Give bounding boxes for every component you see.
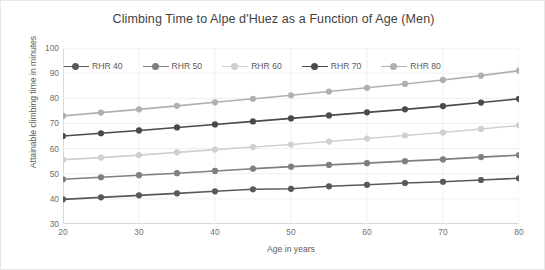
- x-axis-tick-labels: 20304050607080: [63, 227, 519, 241]
- data-point-marker: [478, 154, 484, 160]
- data-point-marker: [250, 96, 256, 102]
- data-point-marker: [326, 138, 332, 144]
- data-point-marker: [478, 126, 484, 132]
- data-point-marker: [174, 149, 180, 155]
- data-point-marker: [478, 99, 484, 105]
- data-point-marker: [98, 130, 104, 136]
- data-point-marker: [288, 186, 294, 192]
- data-point-marker: [98, 174, 104, 180]
- data-point-marker: [250, 118, 256, 124]
- data-point-marker: [136, 192, 142, 198]
- data-point-marker: [478, 177, 484, 183]
- data-point-marker: [402, 180, 408, 186]
- data-point-marker: [63, 157, 66, 163]
- data-point-marker: [136, 106, 142, 112]
- data-point-marker: [63, 133, 66, 139]
- data-point-marker: [364, 109, 370, 115]
- data-point-marker: [478, 73, 484, 79]
- chart-card: Climbing Time to Alpe d'Huez as a Functi…: [0, 0, 545, 270]
- data-point-marker: [440, 179, 446, 185]
- data-point-marker: [174, 124, 180, 130]
- data-point-marker: [440, 103, 446, 109]
- data-point-marker: [212, 146, 218, 152]
- data-point-marker: [326, 162, 332, 168]
- data-point-marker: [288, 92, 294, 98]
- x-tick-label: 60: [347, 227, 387, 237]
- data-point-marker: [250, 186, 256, 192]
- data-point-marker: [364, 85, 370, 91]
- data-point-marker: [98, 110, 104, 116]
- plot-wrap: [63, 48, 519, 224]
- data-point-marker: [212, 188, 218, 194]
- data-point-marker: [288, 115, 294, 121]
- data-point-marker: [364, 135, 370, 141]
- x-axis-title: Age in years: [63, 244, 519, 254]
- data-point-marker: [63, 196, 66, 202]
- data-point-marker: [250, 144, 256, 150]
- data-point-marker: [212, 99, 218, 105]
- data-point-marker: [440, 129, 446, 135]
- x-tick-label: 70: [423, 227, 463, 237]
- data-point-marker: [364, 182, 370, 188]
- data-point-marker: [402, 106, 408, 112]
- data-point-marker: [516, 96, 519, 102]
- data-point-marker: [250, 166, 256, 172]
- data-point-marker: [63, 176, 66, 182]
- data-point-marker: [288, 164, 294, 170]
- data-point-marker: [402, 158, 408, 164]
- data-point-marker: [174, 170, 180, 176]
- x-tick-label: 30: [119, 227, 159, 237]
- data-point-marker: [516, 152, 519, 158]
- data-point-marker: [136, 152, 142, 158]
- x-tick-label: 50: [271, 227, 311, 237]
- data-point-marker: [440, 77, 446, 83]
- data-point-marker: [212, 121, 218, 127]
- data-point-marker: [402, 81, 408, 87]
- data-point-marker: [288, 141, 294, 147]
- data-point-marker: [364, 160, 370, 166]
- data-point-marker: [326, 183, 332, 189]
- data-point-marker: [440, 156, 446, 162]
- data-point-marker: [326, 88, 332, 94]
- series-canvas: [63, 48, 519, 224]
- data-point-marker: [136, 127, 142, 133]
- data-point-marker: [63, 113, 66, 119]
- data-point-marker: [212, 168, 218, 174]
- data-point-marker: [516, 175, 519, 181]
- data-point-marker: [402, 132, 408, 138]
- data-point-marker: [98, 155, 104, 161]
- data-point-marker: [98, 194, 104, 200]
- chart-title: Climbing Time to Alpe d'Huez as a Functi…: [1, 12, 545, 26]
- x-tick-label: 20: [43, 227, 83, 237]
- x-tick-label: 80: [499, 227, 539, 237]
- data-point-marker: [174, 103, 180, 109]
- data-point-marker: [326, 112, 332, 118]
- data-point-marker: [136, 172, 142, 178]
- y-axis-title: Attainable climbing time in minutes: [28, 7, 38, 197]
- x-tick-label: 40: [195, 227, 235, 237]
- data-point-marker: [174, 190, 180, 196]
